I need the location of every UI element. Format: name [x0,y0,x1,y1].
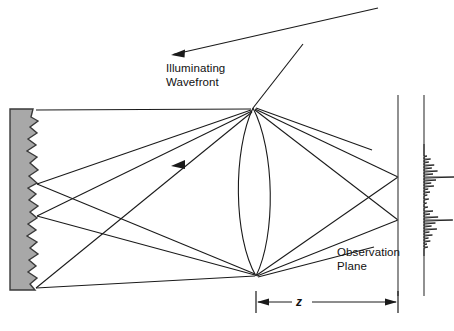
observation-plane-label: Observation Plane [337,246,400,273]
z-arrowhead-right-icon [385,299,397,306]
rough-scattering-surface [10,109,38,290]
illuminating-wavefront-ray [171,8,378,58]
lens-left-face [238,108,256,276]
ray-lenstop-outer-up [256,108,372,150]
illumination-arrowhead-icon [171,50,185,58]
ray-top-to-lenstop [36,109,251,110]
ray-lenstop-to-focus-upper [255,109,398,177]
z-arrowhead-left-icon [257,299,269,306]
rough-surface-shape [10,109,38,290]
lens-right-face [253,108,270,276]
speckle-trace [424,144,454,256]
biconvex-lens [238,108,270,276]
scattered-rays-surface-to-lens [36,109,255,288]
z-distance-label: z [296,296,302,310]
ray-bot-to-lenstop [36,112,252,288]
scattered-ray-arrowhead-icon [171,160,185,169]
secondary-incoming-ray [253,44,303,108]
ray-mid1-to-lenstop [37,110,251,184]
illuminating-wavefront-label: Illuminating Wavefront [166,62,225,89]
figure-canvas: Illuminating Wavefront Observation Plane… [0,0,454,331]
ray-bot-to-lensbot [36,276,255,288]
illumination-ray-line [173,8,378,55]
secondary-ray-line [253,44,303,108]
ray-lenstop-to-focus-lower [255,110,398,220]
z-dimension-arrow [256,291,398,313]
speckle-intensity-profile [424,144,454,256]
observation-plane-line [398,95,424,296]
scattered-ray-arrowhead [171,160,185,169]
optical-ray-diagram [0,0,454,331]
ray-mid2-to-lensbot [37,216,255,275]
